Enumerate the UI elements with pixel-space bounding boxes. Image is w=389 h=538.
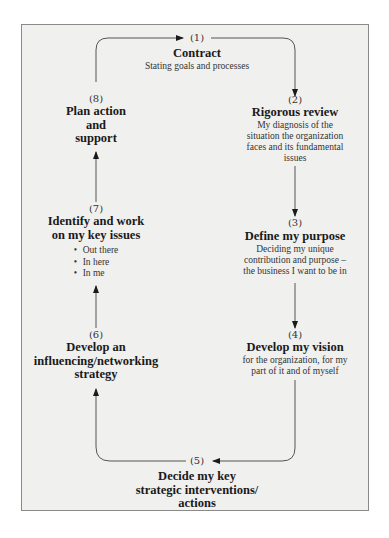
step-description-line: faces and its fundamental bbox=[247, 142, 344, 153]
step-description-line: for the organization, for my bbox=[242, 355, 347, 366]
arrow-5-to-6 bbox=[96, 389, 186, 461]
step-title: Define my purpose bbox=[243, 230, 346, 244]
step-title-line: Develop an bbox=[34, 341, 158, 355]
step-2-rigorous-review: (2) Rigorous review My diagnosis of the … bbox=[247, 94, 344, 164]
step-description-line: issues bbox=[247, 153, 344, 164]
step-title-line: and bbox=[66, 119, 126, 133]
step-title-line: on my key issues bbox=[48, 229, 145, 243]
step-description-line: Deciding my unique bbox=[243, 244, 346, 255]
step-1-contract: (1) Contract Stating goals and processes bbox=[145, 32, 249, 72]
issues-bullet-list: Out there In here In me bbox=[74, 245, 119, 280]
step-number: (3) bbox=[243, 217, 346, 229]
step-description: Stating goals and processes bbox=[145, 61, 249, 72]
step-title: Develop my vision bbox=[242, 341, 347, 355]
step-8-plan-action: (8) Plan action and support bbox=[66, 93, 126, 146]
step-title-line: strategic interventions/ bbox=[136, 484, 259, 498]
bullet-item: In me bbox=[74, 268, 119, 280]
step-number: (1) bbox=[145, 32, 249, 44]
bullet-item: In here bbox=[74, 257, 119, 269]
step-description-line: the business I want to be in bbox=[243, 266, 346, 277]
step-description-line: contribution and purpose – bbox=[243, 255, 346, 266]
step-title-line: influencing/networking bbox=[34, 355, 158, 369]
arrow-4-to-5 bbox=[213, 380, 295, 461]
step-3-define-purpose: (3) Define my purpose Deciding my unique… bbox=[243, 217, 346, 277]
step-6-influencing-strategy: (6) Develop an influencing/networking st… bbox=[34, 329, 158, 382]
step-4-develop-vision: (4) Develop my vision for the organizati… bbox=[242, 329, 347, 377]
step-number: (5) bbox=[136, 455, 259, 467]
step-7-key-issues: (7) Identify and work on my key issues O… bbox=[48, 203, 145, 280]
step-description-line: part of it and of myself bbox=[242, 366, 347, 377]
step-title-line: Decide my key bbox=[136, 470, 259, 484]
step-title: Contract bbox=[145, 47, 249, 61]
step-5-strategic-interventions: (5) Decide my key strategic intervention… bbox=[136, 455, 259, 511]
step-description-line: situation the organization bbox=[247, 131, 344, 142]
step-title-line: Identify and work bbox=[48, 215, 145, 229]
bullet-item: Out there bbox=[74, 245, 119, 257]
step-title-line: strategy bbox=[34, 368, 158, 382]
step-title: Rigorous review bbox=[247, 106, 344, 120]
step-description-line: My diagnosis of the bbox=[247, 120, 344, 131]
step-title-line: Plan action bbox=[66, 105, 126, 119]
step-title-line: actions bbox=[136, 497, 259, 511]
step-title-line: support bbox=[66, 132, 126, 146]
